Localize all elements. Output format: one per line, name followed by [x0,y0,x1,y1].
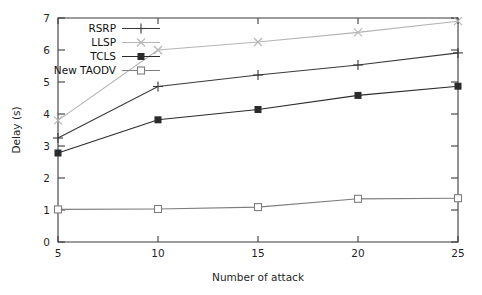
marker-rsrp-10 [153,82,163,92]
series-new-taodv-markers [55,195,462,213]
x-tick-label-10: 10 [151,247,164,259]
y-axis-title: Delay (s) [10,106,22,153]
series-tcls-markers [55,83,462,157]
x-tick-label-15: 15 [251,247,264,259]
legend-marker-rsrp [136,24,146,34]
legend-label-llsp: LLSP [91,36,116,48]
series-rsrp [53,48,463,143]
marker-new-taodv-20 [355,195,362,202]
marker-rsrp-25 [453,48,463,58]
marker-tcls-15 [255,106,262,113]
marker-tcls-20 [355,92,362,99]
marker-tcls-25 [455,83,462,90]
chart-legend: RSRP LLSP TCLS [54,22,160,76]
marker-rsrp-20 [353,60,363,70]
marker-new-taodv-15 [255,204,262,211]
y-tick-label-1: 1 [43,204,50,216]
x-tick-label-5: 5 [55,247,62,259]
legend-label-rsrp: RSRP [88,22,116,34]
y-tick-label-4: 4 [43,108,50,120]
y-tick-label-2: 2 [43,172,50,184]
legend-item-new-taodv[interactable]: New TAODV [54,64,160,76]
legend-marker-tcls [138,53,145,60]
marker-rsrp-5 [53,133,63,143]
legend-label-new-taodv: New TAODV [54,64,117,76]
chart-figure: 0 1 2 3 4 5 6 7 5 10 15 20 [0,0,482,295]
line-chart: 0 1 2 3 4 5 6 7 5 10 15 20 [0,0,482,295]
marker-new-taodv-5 [55,206,62,213]
y-tick-label-5: 5 [43,76,50,88]
y-tick-label-6: 6 [43,44,50,56]
y-tick-label-7: 7 [43,12,50,24]
legend-item-llsp[interactable]: LLSP [91,36,160,48]
x-tick-label-25: 25 [451,247,464,259]
series-rsrp-line [58,53,458,138]
legend-item-rsrp[interactable]: RSRP [88,22,160,34]
y-tick-label-0: 0 [43,236,50,248]
marker-tcls-10 [155,116,162,123]
y-tick-label-3: 3 [43,140,50,152]
legend-item-tcls[interactable]: TCLS [89,50,160,62]
legend-label-tcls: TCLS [89,50,116,62]
legend-marker-new-taodv [138,67,145,74]
marker-tcls-5 [55,150,62,157]
x-axis-tick-labels: 5 10 15 20 25 [55,247,465,259]
marker-rsrp-15 [253,70,263,80]
series-tcls [55,83,462,157]
marker-new-taodv-10 [155,206,162,213]
y-axis-tick-labels: 0 1 2 3 4 5 6 7 [43,12,50,248]
series-rsrp-markers [53,48,463,143]
x-axis-title: Number of attack [212,271,305,283]
x-tick-label-20: 20 [351,247,364,259]
series-tcls-line [58,86,458,153]
marker-new-taodv-25 [455,195,462,202]
series-new-taodv [55,195,462,213]
